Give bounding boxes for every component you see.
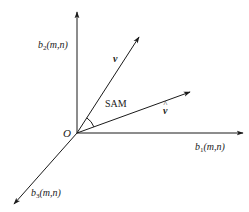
origin-label: O <box>63 127 71 139</box>
axis-b3-label: b3(m,n) <box>31 187 62 200</box>
vector-v-label: v <box>113 53 118 64</box>
sam-angle-arc <box>87 118 94 127</box>
sam-vector-diagram: O b2(m,n) b1(m,n) b3(m,n) v v ^ SAM <box>0 0 249 212</box>
vector-v-line <box>77 37 139 133</box>
axis-b1-label: b1(m,n) <box>195 141 226 154</box>
axis-b2-label: b2(m,n) <box>38 39 69 52</box>
sam-angle-label: SAM <box>105 98 127 109</box>
vector-v-hat-accent: ^ <box>164 100 168 109</box>
